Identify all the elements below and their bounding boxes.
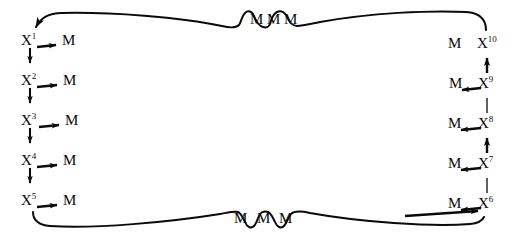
node-sup-x8: 8 <box>489 114 494 124</box>
node-base-x8: X <box>478 115 489 131</box>
m-label-right-1: M <box>448 36 461 51</box>
node-label-x5: X5 <box>21 193 36 208</box>
arrow-x3-to-m <box>39 125 59 127</box>
node-base-x2: X <box>21 72 32 88</box>
node-label-x10: X10 <box>477 36 497 51</box>
bottom-wave-m-label-1: M <box>234 211 247 226</box>
node-label-x3: X3 <box>21 113 36 128</box>
arrow-x1-to-m <box>37 45 56 47</box>
node-sup-x4: 4 <box>32 151 37 161</box>
top-wave-m-label-1: M <box>250 12 263 27</box>
m-label-right-2: M <box>449 76 462 91</box>
node-sup-x10: 10 <box>488 34 497 44</box>
node-label-x4: X4 <box>21 153 36 168</box>
m-label-right-4: M <box>448 156 461 171</box>
m-label-right-5: M <box>448 196 461 211</box>
top-wave-m-label-2: M <box>267 12 280 27</box>
node-base-x1: X <box>21 32 32 48</box>
node-sup-x9: 9 <box>489 74 494 84</box>
node-label-x1: X1 <box>21 33 36 48</box>
diagram-canvas: M M M X1 X2 X3 X4 X5 M M M M M X10 X9 X8… <box>0 0 521 238</box>
node-base-x7: X <box>478 155 489 171</box>
bottom-wave-m-label-2: M <box>257 211 270 226</box>
arrow-x5-to-m <box>37 205 57 207</box>
node-sup-x3: 3 <box>32 111 37 121</box>
node-sup-x6: 6 <box>489 194 494 204</box>
node-base-x5: X <box>21 192 32 208</box>
arrow-x2-to-m <box>37 85 57 87</box>
node-label-x6: X6 <box>478 196 493 211</box>
node-label-x2: X2 <box>21 73 36 88</box>
node-sup-x5: 5 <box>32 191 37 201</box>
top-wave-m-label-3: M <box>284 12 297 27</box>
node-base-x9: X <box>478 75 489 91</box>
right-column-horizontal-arrows <box>461 88 481 210</box>
m-label-left-5: M <box>63 193 76 208</box>
node-base-x10: X <box>477 35 488 51</box>
arrow-x4-to-m <box>37 165 57 167</box>
node-label-x7: X7 <box>478 156 493 171</box>
m-label-left-2: M <box>63 73 76 88</box>
node-base-x3: X <box>21 112 32 128</box>
m-label-right-3: M <box>448 116 461 131</box>
bottom-wave-m-label-3: M <box>279 211 292 226</box>
node-base-x4: X <box>21 152 32 168</box>
left-column-horizontal-arrows <box>37 45 59 207</box>
node-sup-x2: 2 <box>32 71 37 81</box>
m-label-left-1: M <box>62 33 75 48</box>
m-label-left-3: M <box>65 113 78 128</box>
node-sup-x1: 1 <box>32 31 37 41</box>
curve-x5-to-x6-arrowhead <box>405 211 478 216</box>
node-label-x8: X8 <box>478 116 493 131</box>
node-base-x6: X <box>478 195 489 211</box>
node-label-x9: X9 <box>478 76 493 91</box>
node-sup-x7: 7 <box>489 154 494 164</box>
m-label-left-4: M <box>63 153 76 168</box>
